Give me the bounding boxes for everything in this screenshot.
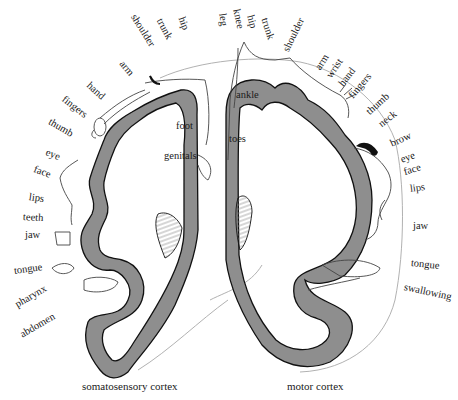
somatosensory-label-jaw: jaw: [25, 230, 40, 241]
motor-label-lips: lips: [409, 182, 425, 195]
motor-label-jaw: jaw: [413, 221, 428, 232]
somatosensory-cortex-band: [81, 90, 198, 378]
motor-label-leg: leg: [217, 13, 229, 27]
motor-cortex-band: [226, 80, 372, 367]
motor-label-toes: toes: [229, 134, 246, 145]
somatosensory-label-lips: lips: [28, 192, 44, 205]
homunculus-figure: hip trunk shoulder arm hand fingers thum…: [0, 0, 458, 400]
homunculus-hand-black-mark: [150, 76, 160, 84]
somatosensory-label-foot: foot: [176, 121, 193, 132]
cortex-drawing: [0, 0, 458, 400]
motor-caption: motor cortex: [287, 380, 344, 392]
somatosensory-caption: somatosensory cortex: [82, 380, 178, 392]
motor-label-ankle: ankle: [236, 90, 259, 101]
motor-label-hip: hip: [245, 14, 258, 30]
somatosensory-label-genitals: genitals: [164, 151, 197, 162]
somatosensory-label-teeth: teeth: [23, 212, 44, 224]
